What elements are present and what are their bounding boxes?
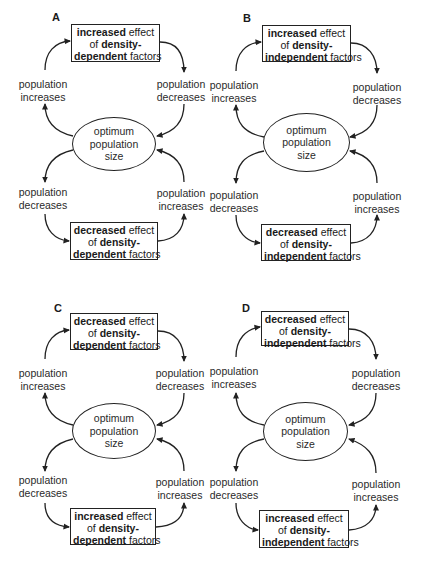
bottom-factor-box: increased effect of density- dependent f… (70, 508, 156, 545)
panel-label: B (243, 13, 251, 24)
upper-left-label: population increases (3, 78, 83, 104)
effect-direction: decreased (265, 313, 317, 325)
factor-type: dependent (74, 50, 127, 62)
panel-d: D decreased effect of density- independe… (192, 287, 406, 573)
optimum-population-ellipse: optimum population size (72, 117, 156, 171)
top-factor-box: increased effect of density- independent… (262, 25, 351, 62)
panel-a: A increased effect of density- dependent… (0, 0, 214, 286)
panel-label: A (52, 12, 60, 23)
factor-type: independent (264, 337, 326, 349)
lower-left-label: population decreases (194, 476, 274, 502)
upper-right-label: population decreases (336, 367, 416, 393)
upper-left-label: population increases (194, 79, 274, 105)
top-factor-box: decreased effect of density- dependent f… (70, 313, 158, 350)
lower-right-label: population increases (336, 478, 416, 504)
panel-label: C (54, 303, 62, 314)
factor-type: dependent (73, 339, 126, 351)
lower-left-label: population decreases (3, 186, 83, 212)
top-factor-box: decreased effect of density- independent… (261, 311, 349, 346)
optimum-population-ellipse: optimum population size (263, 113, 350, 172)
panel-c: C decreased effect of density- dependent… (0, 289, 214, 573)
effect-direction: increased (268, 27, 317, 39)
effect-direction: decreased (74, 315, 126, 327)
upper-left-label: population increases (3, 367, 83, 393)
effect-direction: decreased (266, 226, 318, 238)
bottom-factor-box: decreased effect of density- independent… (261, 224, 351, 261)
panel-b: B increased effect of density- independe… (192, 1, 406, 287)
panel-label: D (242, 303, 250, 314)
factor-type: dependent (73, 534, 126, 546)
upper-right-label: population decreases (337, 81, 417, 107)
optimum-population-ellipse: optimum population size (72, 403, 156, 459)
effect-direction: increased (74, 510, 123, 522)
factor-type: dependent (73, 248, 126, 260)
lower-left-label: population decreases (194, 189, 274, 215)
top-factor-box: increased effect of density- dependent f… (71, 24, 160, 62)
optimum-population-ellipse: optimum population size (263, 402, 348, 461)
upper-left-label: population increases (194, 365, 274, 391)
factor-type: independent (262, 536, 324, 548)
bottom-factor-box: increased effect of density- independent… (259, 510, 349, 548)
bottom-factor-box: decreased effect of density- dependent f… (70, 222, 158, 260)
lower-left-label: population decreases (3, 474, 83, 500)
factor-type: independent (264, 250, 326, 262)
effect-direction: increased (77, 26, 126, 38)
factor-type: independent (265, 51, 327, 63)
effect-direction: increased (265, 512, 314, 524)
lower-right-label: population increases (337, 190, 417, 216)
effect-direction: decreased (74, 224, 126, 236)
